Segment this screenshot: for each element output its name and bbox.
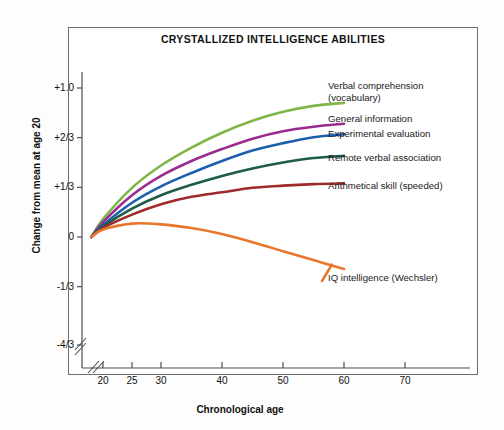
series-label-1: General information bbox=[328, 113, 412, 125]
series-curve-5 bbox=[91, 223, 344, 269]
x-tick-label: 30 bbox=[148, 375, 174, 386]
y-tick-label: -4/3 bbox=[34, 339, 74, 350]
series-label-4: Arithmetical skill (speeded) bbox=[328, 180, 443, 192]
x-tick-label: 50 bbox=[270, 375, 296, 386]
x-tick-label: 25 bbox=[119, 375, 145, 386]
series-label-2: Experimental evaluation bbox=[328, 128, 430, 140]
chart-page: CRYSTALLIZED INTELLIGENCE ABILITIES Chan… bbox=[0, 0, 504, 430]
y-tick-label: +2/3 bbox=[34, 132, 74, 143]
series-curves bbox=[91, 103, 344, 269]
series-label-5: IQ intelligence (Wechsler) bbox=[328, 272, 438, 284]
y-tick-label: +1/3 bbox=[34, 181, 74, 192]
x-tick-label: 40 bbox=[209, 375, 235, 386]
chart-canvas bbox=[0, 0, 504, 430]
x-tick-label: 70 bbox=[392, 375, 418, 386]
x-tick-label: 20 bbox=[90, 375, 116, 386]
series-curve-1 bbox=[91, 124, 344, 237]
y-tick-label: 0 bbox=[34, 231, 74, 242]
y-tick-label: +1.0 bbox=[34, 82, 74, 93]
y-axis-break-mark bbox=[75, 338, 86, 355]
x-axis-title: Chronological age bbox=[120, 404, 360, 415]
y-tick-label: -1/3 bbox=[34, 281, 74, 292]
x-tick-label: 60 bbox=[331, 375, 357, 386]
x-axis-break-mark bbox=[88, 361, 104, 373]
series-label-0: Verbal comprehension (vocabulary) bbox=[328, 80, 423, 103]
y-ticks bbox=[77, 88, 82, 345]
x-ticks bbox=[103, 362, 405, 368]
series-label-3: Remote verbal association bbox=[328, 152, 441, 164]
